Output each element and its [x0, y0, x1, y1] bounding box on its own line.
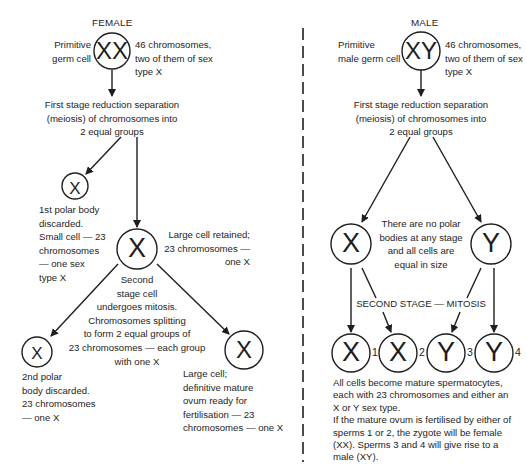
male-arrow-x [362, 137, 410, 222]
female-germ-cell-note: 46 chromosomes, two of them of sex type … [135, 38, 213, 79]
sperm-3-number: 3 [467, 346, 473, 358]
male-germ-cell-symbol: XY [402, 39, 440, 63]
male-arrow-sperm3-b [452, 312, 460, 332]
male-arrow-sperm2-b [383, 312, 391, 332]
female-polar1-symbol: X [62, 177, 88, 201]
male-arrow-y [433, 137, 481, 222]
female-large-cell-symbol: X [117, 236, 157, 260]
male-y-symbol: Y [471, 231, 511, 255]
sperm-4-number: 4 [515, 346, 521, 358]
female-large-cell-note: Large cell retained; 23 chromosomes — on… [160, 228, 250, 269]
female-ovum-note: Large cell; definitive mature ovum ready… [183, 367, 283, 435]
gametogenesis-diagram: FEMALE Primitive germ cell XX 46 chromos… [0, 0, 527, 470]
male-title: MALE [411, 17, 438, 28]
male-second-stage-text: SECOND STAGE — MITOSIS [351, 297, 491, 311]
male-arrow-sperm3-a [467, 268, 481, 298]
female-ovum-symbol: X [225, 338, 263, 362]
female-germ-cell-symbol: XX [94, 39, 130, 63]
female-second-stage-text: Second stage cell undergoes mitosis. Chr… [67, 273, 207, 368]
sperm-1-number: 1 [372, 346, 378, 358]
male-summary-text: All cells become mature spermatocytes, e… [333, 377, 511, 464]
female-arrow-polar1 [86, 137, 121, 174]
sperm-2-number: 2 [419, 346, 425, 358]
sperm-4-symbol: Y [474, 340, 514, 364]
male-germ-cell-note: 46 chromosomes, two of them of sex type … [445, 38, 523, 79]
sperm-3-symbol: Y [426, 340, 466, 364]
sperm-1-symbol: X [331, 340, 371, 364]
male-x-symbol: X [331, 231, 371, 255]
male-germ-cell-label: Primitive male germ cell [338, 38, 400, 65]
female-polar2-symbol: X [22, 342, 52, 366]
female-polar2-note: 2nd polar body discarded. 23 chromosomes… [22, 370, 96, 424]
male-no-polar-note: There are no polar bodies at any stage a… [371, 217, 471, 271]
female-first-stage-text: First stage reduction separation (meiosi… [42, 98, 182, 139]
male-arrow-sperm2-a [362, 268, 376, 298]
female-germ-cell-label: Primitive germ cell [10, 38, 91, 65]
sperm-2-symbol: X [378, 340, 418, 364]
female-title: FEMALE [92, 17, 132, 28]
male-first-stage-text: First stage reduction separation (meiosi… [351, 98, 491, 139]
